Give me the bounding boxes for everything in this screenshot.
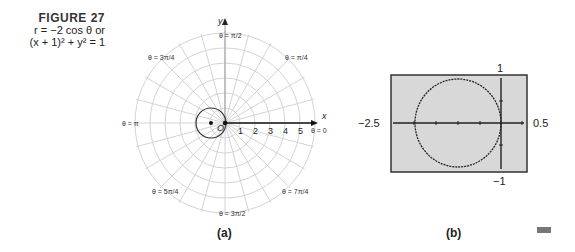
y-axis-arrow-icon xyxy=(222,18,228,25)
radial-tick-4: 4 xyxy=(283,126,288,136)
origin-label: O xyxy=(217,123,224,133)
angle-label-0: θ = 0 xyxy=(311,127,327,134)
radial-tick-1: 1 xyxy=(238,126,243,136)
angle-label-pi-2: θ = π/2 xyxy=(219,32,242,39)
angle-label-7pi-4: θ = 7π/4 xyxy=(282,188,309,195)
polar-graph: O 1 2 3 4 5 x y θ = 0 θ = π/4 θ = π/2 θ … xyxy=(0,0,575,252)
caption-a: (a) xyxy=(217,226,232,240)
ymin-label: −1 xyxy=(493,175,506,187)
end-of-example-icon xyxy=(537,227,551,233)
circle-center-point xyxy=(209,121,213,125)
x-axis-label: x xyxy=(321,111,327,121)
angle-label-pi: θ = π xyxy=(122,120,139,127)
angle-label-5pi-4: θ = 5π/4 xyxy=(152,188,179,195)
y-axis-label: y xyxy=(217,16,223,26)
caption-b: (b) xyxy=(446,226,461,240)
angle-label-3pi-2: θ = 3π/2 xyxy=(219,210,246,217)
radial-tick-5: 5 xyxy=(298,126,303,136)
angle-label-3pi-4: θ = 3π/4 xyxy=(148,54,175,61)
ymax-label: 1 xyxy=(497,62,503,74)
angle-label-pi-4: θ = π/4 xyxy=(285,54,308,61)
radial-tick-3: 3 xyxy=(268,126,273,136)
xmin-label: −2.5 xyxy=(358,117,380,129)
xmax-label: 0.5 xyxy=(533,117,548,129)
radial-tick-2: 2 xyxy=(253,126,258,136)
